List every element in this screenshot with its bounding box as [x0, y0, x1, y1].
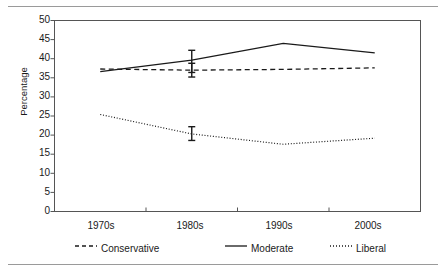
series-line-conservative	[100, 68, 375, 70]
line-chart-figure: Percentage 50 45 40 35 30 25 20 15 10 5 …	[0, 0, 446, 274]
error-bar-moderate	[188, 50, 195, 72]
legend-label: Conservative	[101, 243, 159, 254]
series-line-moderate	[100, 43, 375, 71]
series-line-liberal	[100, 114, 375, 144]
error-bar-layer	[188, 50, 195, 140]
legend-item-liberal: Liberal	[330, 243, 386, 255]
x-tick-marks	[146, 208, 329, 212]
legend-label: Liberal	[356, 243, 386, 254]
legend-label: Moderate	[251, 243, 293, 254]
chart-legend: Conservative Moderate Liberal	[0, 241, 446, 259]
legend-swatch-solid	[225, 240, 247, 246]
y-tick-marks	[51, 21, 55, 212]
legend-swatch-dashed	[75, 240, 97, 246]
error-bar-liberal	[188, 127, 195, 141]
legend-item-conservative: Conservative	[75, 243, 159, 255]
series-layer	[100, 43, 375, 144]
legend-item-moderate: Moderate	[225, 243, 293, 255]
legend-swatch-dotted	[330, 240, 352, 246]
plot-area	[0, 0, 446, 274]
